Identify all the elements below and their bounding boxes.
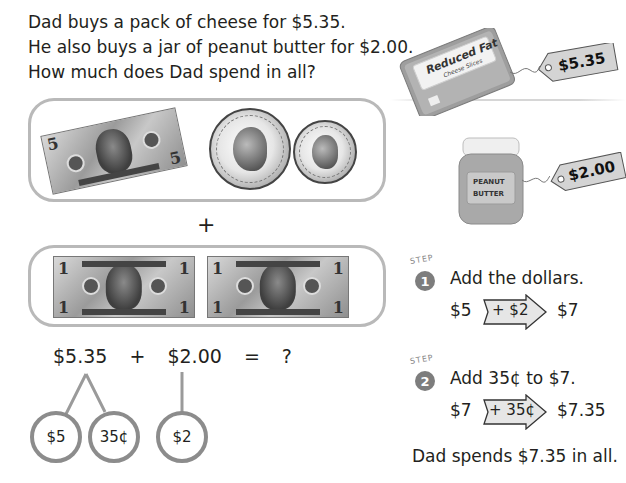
step-2-arrow-label: + 35¢ (489, 401, 535, 419)
bond-label: 35¢ (100, 428, 129, 446)
jar-label-line-1: PEANUT (473, 178, 505, 186)
bill-denomination: 1 (333, 259, 344, 278)
bond-circle-two-dollars: $2 (156, 411, 208, 463)
tag-string (510, 60, 540, 80)
bond-label: $2 (172, 428, 191, 446)
step-1-word: STEP (409, 253, 434, 266)
step-2-number: 2 (420, 374, 429, 389)
step-1-number: 1 (420, 274, 429, 289)
step-1-start: $5 (450, 300, 472, 320)
number-bond-lines (0, 0, 320, 483)
step-1-badge: 1 (415, 271, 435, 291)
tag-string (522, 172, 550, 188)
peanut-butter-price-tag: $2.00 (544, 152, 626, 192)
cheese-pack-image: Reduced Fat Cheese Slices (398, 28, 516, 116)
step-2-result: $7.35 (557, 400, 606, 420)
bond-circle-dollars: $5 (30, 411, 82, 463)
cheese-price-tag: $5.35 (530, 43, 620, 83)
bond-label: $5 (46, 428, 65, 446)
step-2-badge: 2 (415, 371, 435, 391)
conclusion-text: Dad spends $7.35 in all. (412, 446, 618, 466)
jar-label-line-2: BUTTER (473, 190, 504, 198)
step-1-instruction: Add the dollars. (450, 268, 584, 288)
bond-circle-cents: 35¢ (88, 411, 140, 463)
step-2-word: STEP (409, 353, 434, 366)
peanut-butter-jar-image: PEANUT BUTTER (455, 136, 527, 226)
step-1-result: $7 (557, 300, 579, 320)
step-2-instruction: Add 35¢ to $7. (450, 368, 576, 388)
step-2-start: $7 (450, 400, 472, 420)
step-1-arrow-label: + $2 (492, 301, 528, 319)
bill-denomination: 1 (333, 298, 344, 317)
